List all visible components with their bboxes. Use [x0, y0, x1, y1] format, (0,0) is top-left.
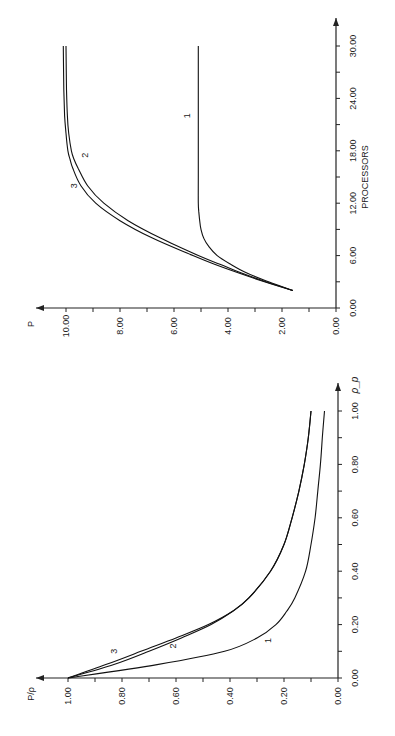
y-tick-label: 1.00 [63, 687, 73, 705]
x-axis-title: PROCESSORS [360, 145, 370, 209]
y-tick-label: 0.60 [171, 687, 181, 705]
x-axis-arrow-icon [335, 383, 341, 391]
series-3-line [63, 46, 292, 291]
y-tick-label: 0.80 [117, 687, 127, 705]
y-axis-title: P [26, 321, 36, 327]
y-tick-label: 0.40 [225, 687, 235, 705]
y-tick-label: 0.20 [279, 687, 289, 705]
series-3-line [68, 411, 311, 678]
series-2-line [68, 411, 311, 678]
x-axis-arrow-icon [333, 18, 339, 26]
y-tick-label: 0.00 [333, 687, 343, 705]
series-label: 1 [263, 638, 273, 643]
x-tick-label: 0.60 [350, 509, 360, 527]
y-tick-label: 2.00 [277, 317, 287, 335]
series-2-line [66, 46, 293, 291]
x-tick-label: 0.40 [350, 562, 360, 580]
speedup-chart: 0.006.0012.0018.0024.0030.000.002.004.00… [26, 18, 370, 337]
series-label: 3 [69, 183, 79, 188]
y-axis-arrow-icon [36, 305, 44, 311]
x-tick-label: 6.00 [348, 247, 358, 265]
series-1-line [68, 411, 325, 678]
x-axis-title: ρ_p [349, 376, 360, 394]
x-tick-label: 24.00 [348, 87, 358, 110]
y-tick-label: 4.00 [223, 317, 233, 335]
x-tick-label: 12.00 [348, 192, 358, 215]
x-tick-label: 0.00 [348, 299, 358, 317]
figure: 0.006.0012.0018.0024.0030.000.002.004.00… [0, 0, 395, 736]
x-tick-label: 18.00 [348, 140, 358, 163]
series-label: 1 [182, 113, 192, 118]
y-tick-label: 0.00 [331, 317, 341, 335]
series-label: 2 [80, 153, 90, 158]
y-tick-label: 10.00 [61, 315, 71, 338]
x-tick-label: 0.80 [350, 456, 360, 474]
series-label: 2 [168, 643, 178, 648]
series-1-line [198, 46, 293, 291]
x-tick-label: 0.00 [350, 669, 360, 687]
y-axis-arrow-icon [36, 675, 44, 681]
y-axis-title: P/ρ [26, 687, 36, 701]
y-tick-label: 8.00 [115, 317, 125, 335]
x-tick-label: 1.00 [350, 402, 360, 420]
series-label: 3 [109, 649, 119, 654]
x-tick-label: 0.20 [350, 616, 360, 634]
efficiency-chart: 0.000.200.400.600.801.000.000.200.400.60… [26, 376, 360, 705]
y-tick-label: 6.00 [169, 317, 179, 335]
x-tick-label: 30.00 [348, 35, 358, 58]
